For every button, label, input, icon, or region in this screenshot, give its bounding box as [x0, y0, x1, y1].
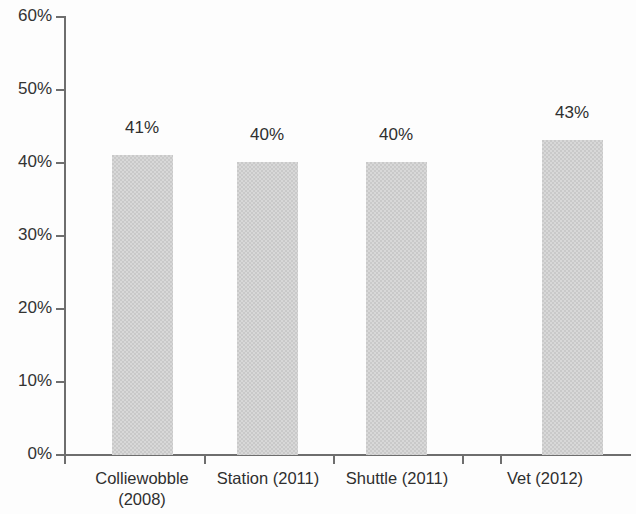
y-axis-label-30: 30% [2, 225, 52, 245]
y-tick-60 [56, 16, 65, 18]
y-tick-10 [56, 381, 65, 383]
bar-value-vet: 43% [555, 103, 589, 123]
bar-colliewobble[interactable] [112, 155, 173, 455]
x-tick-2 [333, 455, 335, 464]
x-category-label-vet: Vet (2012) [507, 468, 583, 489]
bar-vet[interactable] [542, 140, 603, 455]
y-axis-label-50: 50% [2, 79, 52, 99]
x-category-line1-station: Station (2011) [217, 469, 319, 487]
y-tick-20 [56, 308, 65, 310]
x-tick-0 [64, 455, 66, 464]
y-axis-label-20: 20% [2, 298, 52, 318]
x-category-line2-colliewobble: (2008) [95, 489, 189, 510]
x-category-label-shuttle: Shuttle (2011) [346, 468, 448, 489]
bar-value-shuttle: 40% [379, 125, 413, 145]
y-tick-30 [56, 235, 65, 237]
x-category-line1-vet: Vet (2012) [507, 469, 583, 487]
x-category-label-station: Station (2011) [217, 468, 319, 489]
x-category-line1-shuttle: Shuttle (2011) [346, 469, 448, 487]
x-tick-3 [462, 455, 464, 464]
x-tick-1 [204, 455, 206, 464]
plot-area: 60% 50% 40% 30% 20% 10% 0% 41% 40 [0, 0, 636, 514]
bar-shuttle[interactable] [366, 162, 427, 455]
y-axis-label-10: 10% [2, 371, 52, 391]
bar-value-station: 40% [250, 125, 284, 145]
y-axis-label-0: 0% [2, 444, 52, 464]
bar-chart-figure: 60% 50% 40% 30% 20% 10% 0% 41% 40 [0, 0, 636, 514]
x-category-line1-colliewobble: Colliewobble [95, 469, 189, 487]
bar-station[interactable] [237, 162, 298, 455]
y-tick-40 [56, 162, 65, 164]
bar-value-colliewobble: 41% [125, 118, 159, 138]
y-tick-50 [56, 89, 65, 91]
y-axis-label-40: 40% [2, 152, 52, 172]
x-category-label-colliewobble: Colliewobble (2008) [95, 468, 189, 510]
y-axis-label-60: 60% [2, 6, 52, 26]
x-tick-4 [500, 455, 502, 464]
